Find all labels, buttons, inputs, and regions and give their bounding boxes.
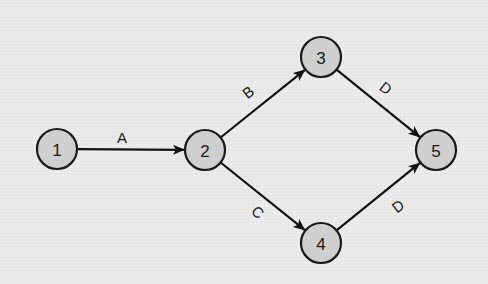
edge-2-3: B: [221, 70, 305, 137]
arrow-icon: [221, 163, 305, 230]
node-label: 3: [316, 49, 325, 68]
edges-layer: ABCDD: [77, 70, 420, 231]
arrow-icon: [77, 149, 184, 150]
arrow-icon: [337, 70, 420, 137]
edge-3-5: D: [337, 70, 420, 137]
node-3: 3: [301, 37, 341, 77]
node-label: 5: [431, 142, 440, 161]
node-1: 1: [37, 129, 77, 169]
node-4: 4: [301, 223, 341, 263]
edge-2-4: C: [221, 163, 305, 230]
node-label: 4: [316, 235, 325, 254]
edge-label: D: [376, 78, 395, 98]
node-label: 1: [52, 141, 61, 160]
node-2: 2: [185, 130, 225, 170]
arrow-icon: [221, 70, 305, 137]
edge-4-5: D: [337, 163, 420, 230]
node-label: 2: [200, 142, 209, 161]
diagram-svg: ABCDD 12345: [0, 0, 488, 284]
network-diagram: ABCDD 12345: [0, 0, 488, 284]
edge-1-2: A: [77, 129, 184, 150]
edge-label: D: [388, 196, 407, 216]
arrow-icon: [337, 163, 420, 230]
edge-label: A: [117, 129, 127, 146]
node-5: 5: [416, 130, 456, 170]
edge-label: B: [239, 82, 257, 102]
edge-label: C: [248, 202, 267, 222]
